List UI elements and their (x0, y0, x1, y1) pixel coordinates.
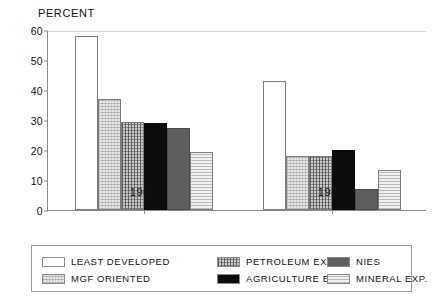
bar-1960-mgf-oriented (98, 99, 121, 210)
chart-legend: LEAST DEVELOPEDPETROLEUM EXP.NIESMGF ORI… (31, 245, 412, 292)
bar-1987-agriculture-exp (332, 150, 355, 210)
bar-1987-petroleum-exp (309, 156, 332, 210)
y-axis-tick-mark (44, 151, 48, 152)
legend-swatch-icon (327, 257, 350, 267)
bar-1987-mineral-exp (378, 170, 401, 211)
legend-swatch-icon (42, 274, 65, 284)
bar-1987-mgf-oriented (286, 156, 309, 210)
y-axis-tick-mark (44, 181, 48, 182)
x-axis-tick-mark (332, 210, 333, 214)
legend-item-nies[interactable]: NIES (327, 256, 428, 267)
bar-1960-nies (167, 128, 190, 211)
y-axis-tick-label: 50 (31, 55, 43, 67)
legend-swatch-icon (217, 274, 240, 284)
y-axis-tick-label: 60 (31, 25, 43, 37)
y-axis-tick-label: 20 (31, 145, 43, 157)
bar-1960-least-developed (75, 36, 98, 210)
y-axis-tick-label: 40 (31, 85, 43, 97)
y-axis-tick-mark (44, 31, 48, 32)
plot-area: 0102030405060 (47, 31, 426, 211)
legend-item-agriculture-exp[interactable]: AGRICULTURE EXP. (217, 273, 327, 284)
x-axis-label-1987: 1987 (318, 186, 344, 198)
y-axis-tick-label: 0 (37, 205, 43, 217)
bar-1960-mineral-exp (190, 152, 213, 211)
x-axis-tick-mark (144, 210, 145, 214)
axis-title-percent: PERCENT (38, 7, 95, 19)
legend-item-label: LEAST DEVELOPED (71, 256, 170, 267)
legend-item-mgf-oriented[interactable]: MGF ORIENTED (42, 273, 217, 284)
bar-1987-least-developed (263, 81, 286, 210)
y-axis-tick-label: 30 (31, 115, 43, 127)
y-axis-tick-label: 10 (31, 175, 43, 187)
chart-root: PERCENT 0102030405060 LEAST DEVELOPEDPET… (0, 0, 443, 308)
y-axis-tick-mark (44, 91, 48, 92)
bar-1987-nies (355, 189, 378, 210)
x-axis-label-1960: 1960 (130, 186, 156, 198)
legend-item-label: MINERAL EXP. (356, 273, 428, 284)
legend-item-label: MGF ORIENTED (71, 273, 150, 284)
legend-item-label: NIES (356, 256, 380, 267)
legend-swatch-icon (327, 274, 350, 284)
legend-swatch-icon (42, 257, 65, 267)
y-axis-tick-mark (44, 121, 48, 122)
legend-item-least-developed[interactable]: LEAST DEVELOPED (42, 256, 217, 267)
legend-item-label: PETROLEUM EXP. (246, 256, 336, 267)
legend-item-petroleum-exp[interactable]: PETROLEUM EXP. (217, 256, 327, 267)
y-axis-tick-mark (44, 61, 48, 62)
legend-swatch-icon (217, 257, 240, 267)
y-axis-tick-mark (44, 211, 48, 212)
legend-item-mineral-exp[interactable]: MINERAL EXP. (327, 273, 428, 284)
